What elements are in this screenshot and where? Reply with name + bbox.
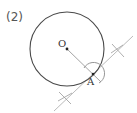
center-label-o: O [58,38,66,49]
tangent-point-label-a: A [86,76,95,87]
radius-line-oa [67,49,101,82]
cross-mark-lower [58,92,72,104]
tangent-construction-figure: O A [0,0,137,113]
tangent-point-a [92,73,95,76]
